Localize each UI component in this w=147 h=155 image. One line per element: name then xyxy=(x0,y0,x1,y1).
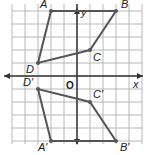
vertex-label: D′ xyxy=(23,76,34,88)
vertex-point xyxy=(114,139,118,143)
x-axis-label: x xyxy=(132,78,139,90)
vertex-point xyxy=(49,139,53,143)
vertex-label: C′ xyxy=(93,88,104,100)
vertex-point xyxy=(49,9,53,13)
vertex-point xyxy=(36,87,40,91)
origin-label: O xyxy=(66,80,74,91)
vertex-label: D xyxy=(26,63,34,75)
coordinate-grid: yxOABCDA′B′C′D′ xyxy=(0,0,147,155)
vertex-label: A xyxy=(39,0,47,10)
vertex-point xyxy=(88,100,92,104)
vertex-label: B xyxy=(121,0,128,10)
vertex-label: B′ xyxy=(120,141,130,153)
x-axis-arrow-left-icon xyxy=(4,73,10,79)
vertex-point xyxy=(88,48,92,52)
vertex-label: C xyxy=(93,51,101,63)
vertex-point xyxy=(114,9,118,13)
vertex-label: A′ xyxy=(37,141,48,153)
vertex-point xyxy=(36,61,40,65)
